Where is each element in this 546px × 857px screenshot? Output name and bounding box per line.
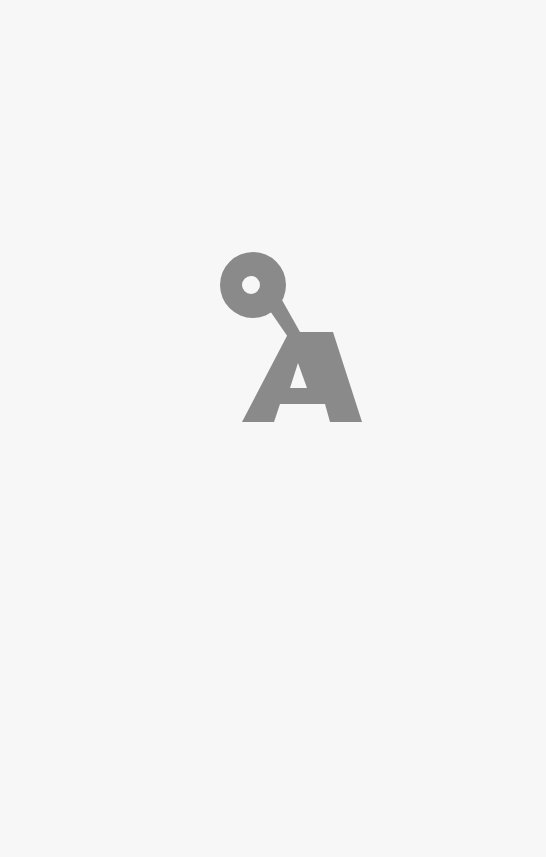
splash-screen: QA [0, 0, 546, 857]
a-letter-shape [242, 332, 362, 422]
qa-logo-icon [0, 0, 546, 857]
